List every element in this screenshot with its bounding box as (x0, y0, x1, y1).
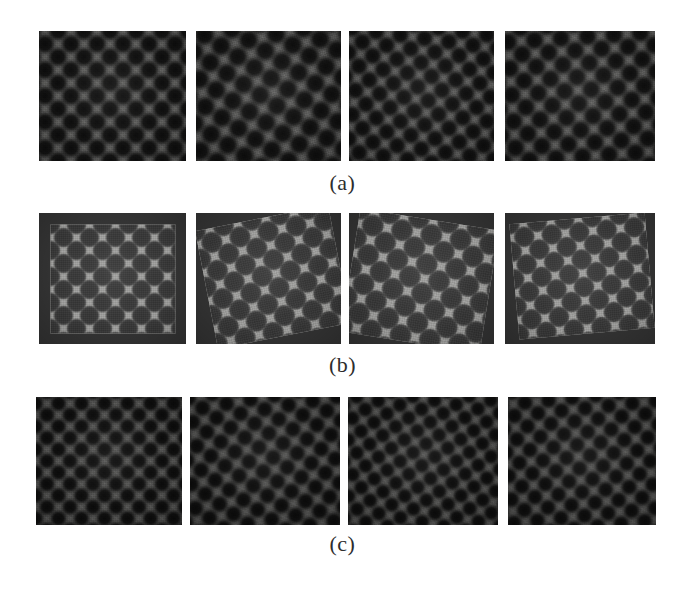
texture-row-c (0, 0, 685, 590)
texture-panel-c-4 (508, 397, 656, 525)
texture-panel-c-3 (348, 397, 498, 525)
row-caption-c: (c) (0, 531, 685, 557)
panel-vignette (190, 397, 340, 525)
figure-container: (a) (b) (c) (0, 0, 685, 590)
texture-panel-c-1 (36, 397, 182, 525)
panel-vignette (348, 397, 498, 525)
panel-vignette (36, 397, 182, 525)
texture-panel-c-2 (190, 397, 340, 525)
panel-vignette (508, 397, 656, 525)
